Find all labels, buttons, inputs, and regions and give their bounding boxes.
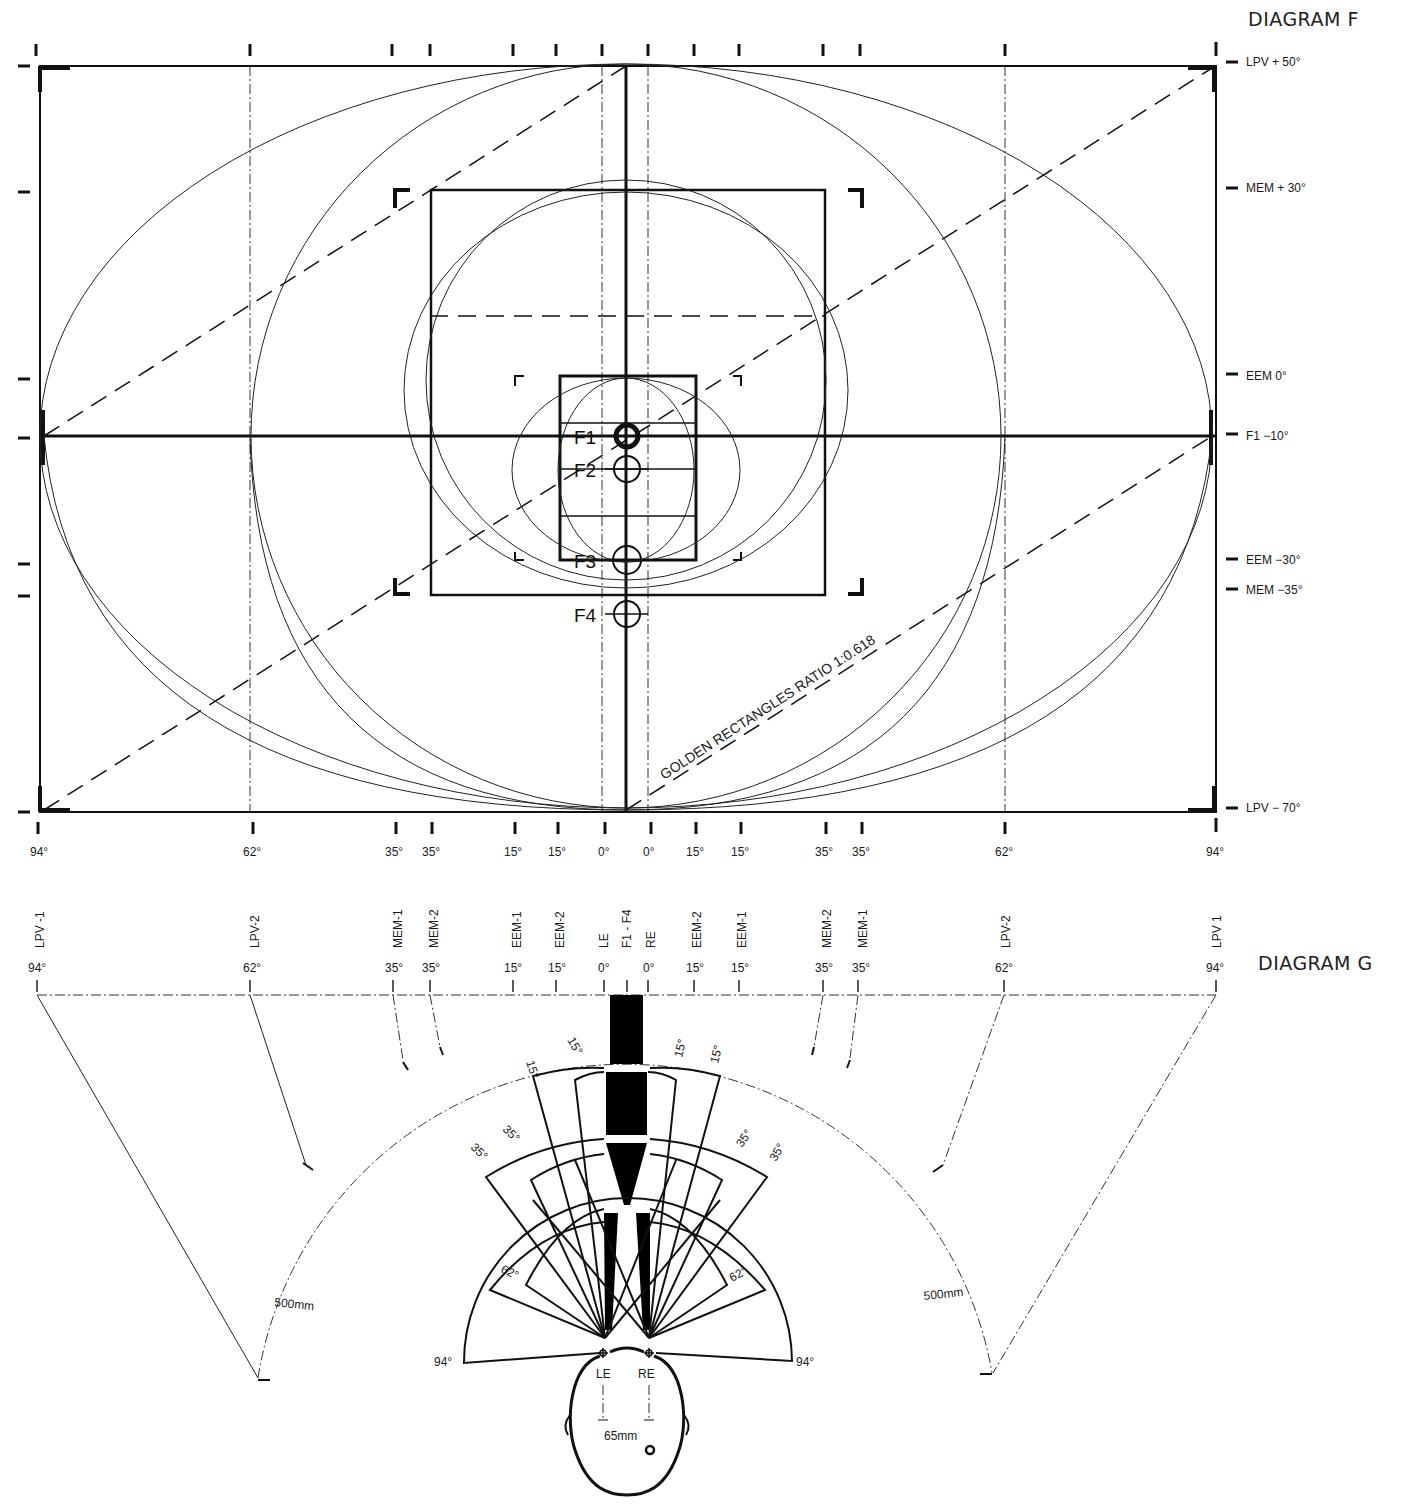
diagram-g-title: DIAGRAM G: [1258, 952, 1373, 974]
svg-text:15°: 15°: [504, 845, 522, 859]
svg-text:35°: 35°: [733, 1127, 755, 1150]
svg-text:35°: 35°: [422, 845, 440, 859]
right-axis-labels: LPV + 50° MEM + 30° EEM 0° F1 −10° EEM −…: [1246, 55, 1306, 815]
radius-label-left: 500mm: [274, 1295, 315, 1313]
focal-point-f2: F2: [574, 456, 648, 482]
svg-text:15°: 15°: [504, 961, 522, 975]
svg-text:15°: 15°: [564, 1035, 585, 1058]
svg-text:0°: 0°: [643, 961, 655, 975]
mem-rectangle: [431, 190, 825, 595]
diagram-canvas: DIAGRAM F: [0, 0, 1410, 1507]
svg-text:0°: 0°: [598, 961, 610, 975]
bottom-axis-labels: 94° 62° 35° 35° 15° 15° 0° 0° 15° 15° 35…: [30, 845, 1224, 859]
svg-text:0°: 0°: [643, 845, 655, 859]
top-ticks: [36, 42, 1216, 56]
svg-text:F1 - F4: F1 - F4: [620, 909, 634, 948]
svg-text:15°: 15°: [707, 1044, 725, 1065]
svg-text:35°: 35°: [815, 961, 833, 975]
f3-label: F3: [574, 551, 596, 572]
label-lpv-minus-70: LPV − 70°: [1246, 801, 1301, 815]
label-eem-0: EEM 0°: [1246, 369, 1287, 383]
nose-icon: [610, 1348, 644, 1352]
svg-text:94°: 94°: [434, 1355, 452, 1369]
diagram-f-title: DIAGRAM F: [1248, 8, 1359, 30]
svg-text:LE: LE: [597, 933, 611, 948]
svg-text:MEM-1: MEM-1: [856, 909, 870, 948]
svg-text:35°: 35°: [422, 961, 440, 975]
svg-text:0°: 0°: [598, 845, 610, 859]
column-ticks: [37, 980, 1216, 992]
svg-text:35°: 35°: [852, 845, 870, 859]
svg-text:RE: RE: [644, 931, 658, 948]
svg-text:94°: 94°: [28, 961, 46, 975]
focal-point-f4: F4: [574, 601, 648, 627]
diagonal-dashed-lines: [44, 66, 1212, 810]
f4-label: F4: [574, 605, 597, 626]
svg-text:35°: 35°: [500, 1122, 523, 1145]
svg-text:LPV-2: LPV-2: [248, 915, 262, 948]
right-eye-label: RE: [638, 1367, 655, 1381]
label-lpv-plus-50: LPV + 50°: [1246, 55, 1301, 69]
svg-text:62°: 62°: [243, 961, 261, 975]
head-figure: LE RE 65mm: [565, 1348, 688, 1495]
svg-text:35°: 35°: [468, 1140, 491, 1163]
svg-text:15°: 15°: [523, 1059, 542, 1081]
left-ticks: [18, 66, 30, 812]
svg-text:15°: 15°: [686, 961, 704, 975]
label-eem-minus-30: EEM −30°: [1246, 553, 1301, 567]
right-ticks: [1226, 62, 1238, 808]
golden-ratio-annotation: GOLDEN RECTANGLES RATIO 1:0.618: [657, 631, 878, 782]
svg-text:62°: 62°: [995, 961, 1013, 975]
svg-text:35°: 35°: [852, 961, 870, 975]
svg-text:EEM-1: EEM-1: [510, 911, 524, 948]
label-mem-minus-35: MEM −35°: [1246, 583, 1303, 597]
svg-text:94°: 94°: [796, 1355, 814, 1369]
svg-text:62°: 62°: [727, 1264, 750, 1285]
svg-text:15°: 15°: [548, 961, 566, 975]
svg-text:15°: 15°: [671, 1038, 689, 1059]
svg-text:15°: 15°: [731, 845, 749, 859]
radius-label-right: 500mm: [923, 1285, 964, 1303]
svg-text:LPV -1: LPV -1: [33, 911, 47, 948]
focal-point-f3: F3: [574, 546, 648, 574]
f2-label: F2: [574, 460, 596, 481]
head-outline: [570, 1356, 683, 1495]
left-eye-label: LE: [596, 1367, 611, 1381]
svg-text:62°: 62°: [243, 845, 261, 859]
svg-text:MEM-2: MEM-2: [427, 909, 441, 948]
bottom-ticks: [38, 818, 1216, 834]
svg-text:35°: 35°: [385, 845, 403, 859]
svg-text:62°: 62°: [499, 1262, 522, 1282]
svg-text:EEM-2: EEM-2: [690, 911, 704, 948]
column-names: LPV -1 LPV-2 MEM-1 MEM-2 EEM-1 EEM-2 LE …: [33, 909, 1224, 948]
svg-text:15°: 15°: [548, 845, 566, 859]
svg-text:EEM-1: EEM-1: [735, 911, 749, 948]
svg-text:35°: 35°: [766, 1141, 787, 1164]
label-f1-minus-10: F1 −10°: [1246, 429, 1289, 443]
svg-text:MEM-2: MEM-2: [820, 909, 834, 948]
column-degrees: 94° 62° 35° 35° 15° 15° 0° 0° 15° 15° 35…: [28, 961, 1224, 975]
svg-text:94°: 94°: [30, 845, 48, 859]
svg-text:62°: 62°: [995, 845, 1013, 859]
svg-text:35°: 35°: [385, 961, 403, 975]
f1-label: F1: [574, 427, 596, 448]
svg-text:15°: 15°: [686, 845, 704, 859]
diagram-f: DIAGRAM F: [18, 8, 1359, 859]
label-mem-plus-30: MEM + 30°: [1246, 181, 1306, 195]
eye-distance-label: 65mm: [604, 1429, 637, 1443]
svg-text:LPV-2: LPV-2: [999, 915, 1013, 948]
svg-text:94°: 94°: [1206, 845, 1224, 859]
svg-text:35°: 35°: [815, 845, 833, 859]
svg-text:EEM-2: EEM-2: [553, 911, 567, 948]
svg-text:MEM-1: MEM-1: [391, 909, 405, 948]
svg-text:94°: 94°: [1206, 961, 1224, 975]
svg-text:LPV 1: LPV 1: [1210, 915, 1224, 948]
focal-beam: [604, 995, 650, 1330]
diagram-g: DIAGRAM G LPV -1 LPV-2 MEM-1 MEM-2 EEM-1…: [28, 909, 1373, 1495]
svg-text:15°: 15°: [731, 961, 749, 975]
svg-text:GOLDEN RECTANGLES RATIO 1:0.61: GOLDEN RECTANGLES RATIO 1:0.618: [657, 631, 878, 782]
